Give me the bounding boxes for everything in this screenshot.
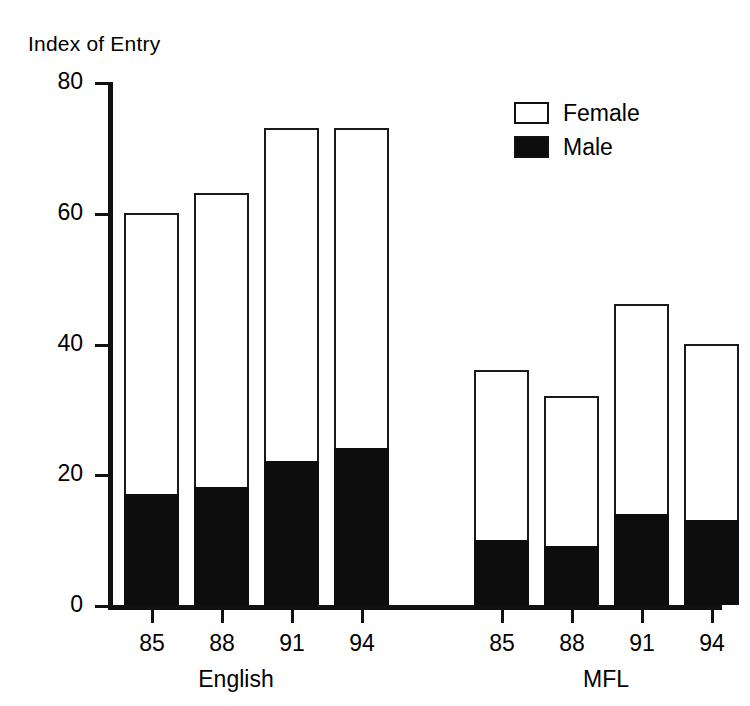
bar-mfl-94 [684,344,739,606]
y-tick-label-60: 60 [57,199,83,226]
legend-swatch-female-icon [514,102,549,124]
y-tick-40: 40 [95,344,108,347]
legend-item-male: Male [514,130,640,164]
x-tick-label-mfl-91: 91 [629,630,655,657]
x-tick-mfl-85 [501,610,504,623]
y-tick-label-0: 0 [70,591,83,618]
y-tick-0: 0 [95,605,108,608]
x-tick-english-88 [221,610,224,623]
bar-segment-male [474,540,529,605]
bar-mfl-91 [614,304,669,605]
y-tick-80: 80 [95,82,108,85]
legend-swatch-male-icon [514,136,549,158]
group-label-english: English [198,666,273,693]
y-axis-line [108,82,113,605]
bar-english-91 [264,128,319,605]
x-tick-mfl-91 [641,610,644,623]
bar-segment-male [264,461,319,605]
x-tick-english-91 [291,610,294,623]
chart-legend: Female Male [514,96,640,164]
x-tick-label-mfl-94: 94 [699,630,725,657]
chart-figure: Index of Entry 80 60 40 20 0 [0,0,750,706]
bar-english-85 [124,213,179,605]
bar-segment-male [614,514,669,606]
group-label-mfl: MFL [583,666,629,693]
bar-segment-male [544,546,599,605]
x-tick-english-94 [361,610,364,623]
bar-segment-male [124,494,179,605]
y-axis-title: Index of Entry [28,32,160,56]
x-tick-label-mfl-85: 85 [489,630,515,657]
bar-english-94 [334,128,389,605]
legend-item-female: Female [514,96,640,130]
x-tick-label-english-88: 88 [209,630,235,657]
x-tick-mfl-94 [711,610,714,623]
y-tick-20: 20 [95,474,108,477]
x-tick-label-mfl-88: 88 [559,630,585,657]
y-tick-label-20: 20 [57,460,83,487]
x-tick-label-english-85: 85 [139,630,165,657]
bar-segment-male [684,520,739,605]
legend-label-female: Female [563,102,640,125]
bar-segment-male [334,448,389,605]
bar-mfl-85 [474,370,529,605]
bar-mfl-88 [544,396,599,605]
bar-english-88 [194,193,249,605]
bar-segment-male [194,487,249,605]
y-tick-60: 60 [95,213,108,216]
legend-label-male: Male [563,136,613,159]
x-tick-mfl-88 [571,610,574,623]
x-tick-english-85 [151,610,154,623]
x-axis-line [108,605,722,610]
y-tick-label-80: 80 [57,68,83,95]
y-tick-label-40: 40 [57,330,83,357]
x-tick-label-english-91: 91 [279,630,305,657]
x-tick-label-english-94: 94 [349,630,375,657]
